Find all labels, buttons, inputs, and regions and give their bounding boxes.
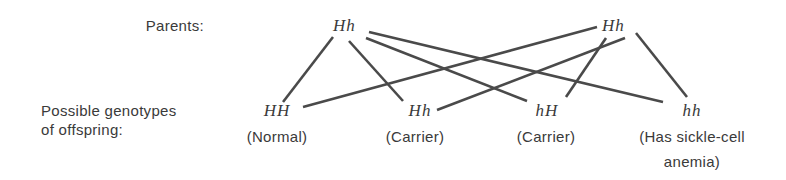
offspring-hH-description: (Carrier): [496, 127, 596, 146]
offspring-label-line1: Possible genotypes: [41, 101, 177, 120]
line-right-parent-to-hh: [636, 33, 687, 97]
line-right-parent-to-Hh: [437, 38, 625, 110]
line-left-parent-to-hH: [366, 38, 527, 101]
offspring-hh-description: (Has sickle-cell anemia): [616, 127, 768, 171]
offspring-label: Possible genotypes of offspring:: [41, 101, 177, 139]
offspring-HH-description: (Normal): [227, 127, 327, 146]
offspring-Hh-genotype: Hh: [398, 101, 442, 121]
line-left-parent-to-hh: [369, 32, 663, 102]
punnett-cross-diagram: Parents: Possible genotypes of offspring…: [0, 0, 786, 180]
parents-label: Parents:: [104, 16, 204, 35]
offspring-HH-genotype: HH: [255, 101, 299, 121]
offspring-Hh-description: (Carrier): [365, 127, 465, 146]
offspring-hh-description-line1: (Has sickle-cell: [616, 127, 768, 146]
offspring-label-line2: of offspring:: [41, 120, 177, 139]
offspring-hh-genotype: hh: [670, 101, 714, 121]
offspring-hH-genotype: hH: [525, 101, 569, 121]
parent-right-genotype: Hh: [602, 16, 625, 36]
offspring-hh-description-line2: anemia): [616, 152, 768, 171]
parent-left-genotype: Hh: [333, 16, 356, 36]
line-left-parent-to-HH: [283, 37, 333, 102]
